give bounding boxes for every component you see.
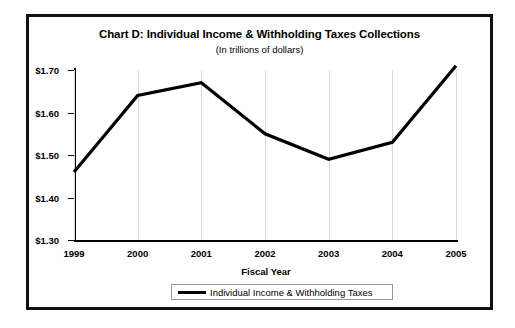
gridline <box>329 70 330 240</box>
x-axis-line <box>74 240 458 242</box>
gridline <box>456 70 457 240</box>
x-tick-label: 2000 <box>127 248 148 259</box>
gridline <box>74 70 75 240</box>
y-tick-label: $1.30 <box>35 235 59 246</box>
x-tick-label: 2003 <box>318 248 339 259</box>
x-tick-label: 2005 <box>445 248 466 259</box>
x-tick-label: 1999 <box>63 248 84 259</box>
y-tick-mark <box>68 240 75 241</box>
x-tick-label: 2004 <box>382 248 403 259</box>
y-tick-label: $1.40 <box>35 192 59 203</box>
y-tick-label: $1.50 <box>35 150 59 161</box>
legend-label: Individual Income & Withholding Taxes <box>210 287 372 298</box>
gridline <box>201 70 202 240</box>
x-tick-label: 2001 <box>191 248 212 259</box>
y-tick-label: $1.70 <box>35 65 59 76</box>
gridline <box>138 70 139 240</box>
chart-title: Chart D: Individual Income & Withholding… <box>29 28 490 40</box>
y-tick-label: $1.60 <box>35 107 59 118</box>
gridline <box>392 70 393 240</box>
chart-inner: Chart D: Individual Income & Withholding… <box>29 17 490 307</box>
x-axis-title: Fiscal Year <box>74 266 458 277</box>
chart-legend: Individual Income & Withholding Taxes <box>171 284 393 300</box>
chart-figure: Chart D: Individual Income & Withholding… <box>26 14 493 310</box>
chart-subtitle: (In trillions of dollars) <box>29 44 490 55</box>
legend-line-swatch <box>178 291 206 294</box>
x-tick-label: 2002 <box>254 248 275 259</box>
gridline <box>265 70 266 240</box>
